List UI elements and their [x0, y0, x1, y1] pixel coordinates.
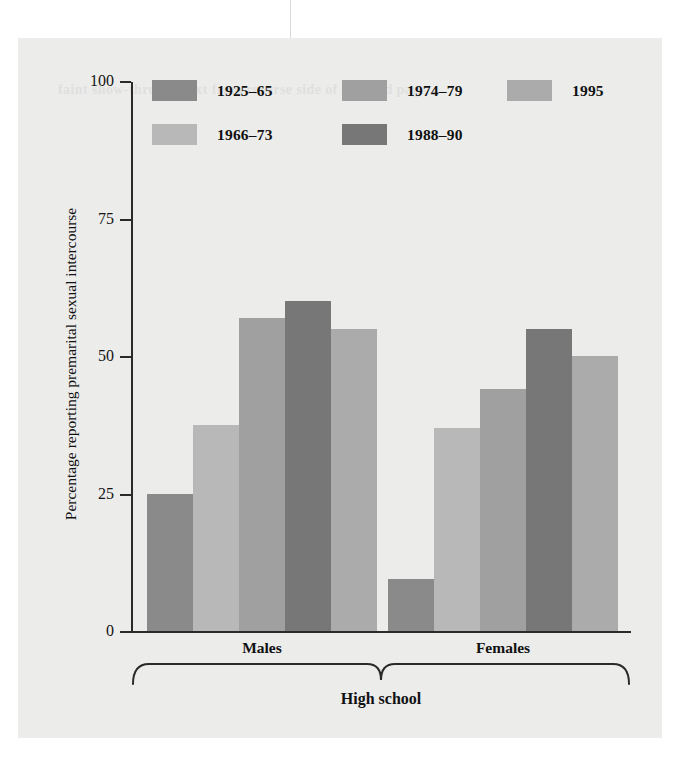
legend-label: 1974–79	[407, 82, 463, 100]
bracket-label: High school	[131, 690, 631, 708]
figure-page: faint show-through text from reverse sid…	[0, 0, 680, 757]
legend-label: 1995	[572, 82, 604, 100]
legend-label: 1988–90	[407, 126, 463, 144]
bar-males-1925-65	[147, 494, 193, 632]
bar-males-1995	[331, 329, 377, 632]
bar-females-1995	[572, 356, 618, 631]
bar-females-1988-90	[526, 329, 572, 632]
bar-males-1988-90	[285, 301, 331, 631]
legend-swatch-icon	[507, 80, 552, 101]
legend-item-1966-73[interactable]: 1966–73	[152, 124, 273, 145]
x-group-label-females: Females	[388, 639, 618, 657]
legend-item-1974-79[interactable]: 1974–79	[342, 80, 463, 101]
legend-label: 1925–65	[217, 82, 273, 100]
x-axis-line	[131, 631, 631, 633]
legend-row: 1966–731988–90	[152, 124, 622, 168]
bar-females-1925-65	[388, 579, 434, 631]
bar-males-1974-79	[239, 318, 285, 632]
legend-swatch-icon	[152, 124, 197, 145]
legend-label: 1966–73	[217, 126, 273, 144]
bar-males-1966-73	[193, 425, 239, 631]
x-group-label-males: Males	[147, 639, 377, 657]
legend-item-1995[interactable]: 1995	[507, 80, 604, 101]
legend-swatch-icon	[342, 124, 387, 145]
y-tick-mark	[120, 631, 131, 633]
legend-item-1988-90[interactable]: 1988–90	[342, 124, 463, 145]
legend-row: 1925–651974–791995	[152, 80, 622, 124]
legend-item-1925-65[interactable]: 1925–65	[152, 80, 273, 101]
legend-swatch-icon	[342, 80, 387, 101]
bar-females-1966-73	[434, 428, 480, 632]
legend: 1925–651974–791995 1966–731988–90	[152, 80, 622, 168]
bar-chart: Percentage reporting premarital sexual i…	[0, 0, 680, 757]
group-bracket	[131, 660, 631, 686]
legend-swatch-icon	[152, 80, 197, 101]
bar-females-1974-79	[480, 389, 526, 631]
